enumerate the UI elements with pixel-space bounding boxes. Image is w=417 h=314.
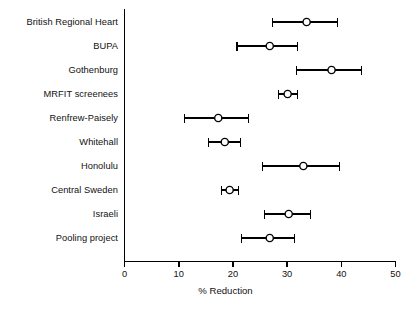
x-axis-tick-label: 50 bbox=[390, 269, 400, 279]
point-estimate-marker bbox=[215, 114, 222, 121]
forest-plot-figure: British Regional HeartBUPAGothenburgMRFI… bbox=[0, 0, 417, 314]
forest-plot-canvas bbox=[0, 0, 417, 314]
forest-plot-row bbox=[209, 138, 241, 147]
forest-plot-row bbox=[237, 42, 297, 51]
x-axis-tick-label: 10 bbox=[174, 269, 184, 279]
x-axis-tick-label: 30 bbox=[282, 269, 292, 279]
axes-group bbox=[124, 9, 396, 262]
x-axis-tick-group bbox=[125, 262, 396, 267]
x-axis-tick-label: 0 bbox=[122, 269, 127, 279]
data-point-group bbox=[185, 18, 362, 243]
forest-plot-row bbox=[242, 234, 295, 243]
x-axis-title: % Reduction bbox=[0, 285, 417, 296]
forest-plot-row bbox=[264, 210, 310, 219]
x-axis-title-text: % Reduction bbox=[198, 285, 252, 296]
point-estimate-marker bbox=[328, 66, 335, 73]
forest-plot-row bbox=[278, 90, 297, 99]
point-estimate-marker bbox=[300, 162, 307, 169]
forest-plot-row bbox=[272, 18, 337, 27]
point-estimate-marker bbox=[226, 186, 233, 193]
forest-plot-row bbox=[263, 162, 340, 171]
point-estimate-marker bbox=[303, 18, 310, 25]
point-estimate-marker bbox=[285, 210, 292, 217]
forest-plot-row bbox=[296, 66, 361, 75]
forest-plot-row bbox=[222, 186, 239, 195]
point-estimate-marker bbox=[266, 234, 273, 241]
forest-plot-row bbox=[185, 114, 249, 123]
point-estimate-marker bbox=[221, 138, 228, 145]
x-axis-tick-label: 20 bbox=[228, 269, 238, 279]
x-axis-tick-label: 40 bbox=[336, 269, 346, 279]
point-estimate-marker bbox=[284, 90, 291, 97]
point-estimate-marker bbox=[266, 42, 273, 49]
